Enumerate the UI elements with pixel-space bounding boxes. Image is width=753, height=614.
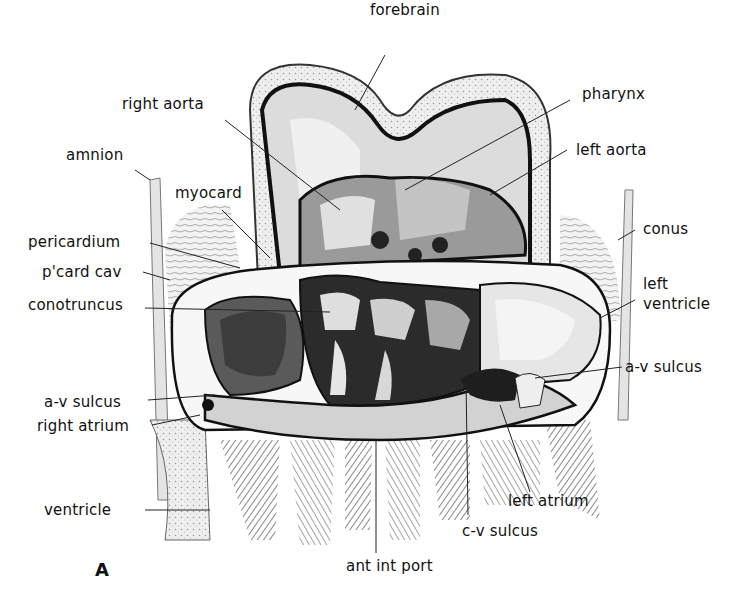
label-right-atrium: right atrium — [37, 418, 129, 434]
label-av-sulcus-left: a-v sulcus — [44, 394, 121, 410]
label-ventricle: ventricle — [44, 502, 111, 518]
label-ant-int-port: ant int port — [346, 558, 433, 574]
label-right-aorta: right aorta — [122, 96, 204, 112]
label-pharynx: pharynx — [582, 86, 645, 102]
label-left-aorta: left aorta — [576, 142, 647, 158]
label-cv-sulcus: c-v sulcus — [462, 523, 538, 539]
label-myocard: myocard — [175, 185, 242, 201]
label-av-sulcus-right: a-v sulcus — [625, 359, 702, 375]
leader-line-amnion — [135, 170, 150, 180]
panel-letter: A — [95, 562, 109, 578]
pharynx-region — [300, 176, 526, 268]
label-conus: conus — [643, 221, 688, 237]
label-pericardium: pericardium — [28, 234, 120, 250]
heart-body — [202, 275, 601, 440]
label-pcard-cav: p'card cav — [42, 264, 122, 280]
label-left-atrium: left atrium — [508, 493, 589, 509]
label-forebrain: forebrain — [370, 2, 440, 18]
label-left-ventricle: left ventricle — [643, 274, 710, 314]
label-conotruncus: conotruncus — [28, 297, 123, 313]
label-amnion: amnion — [66, 147, 123, 163]
diagram-figure: forebrain pharynx right aorta left aorta… — [0, 0, 753, 614]
